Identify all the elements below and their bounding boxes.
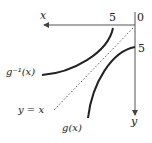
curve-g-inverse-label: g⁻¹(x): [6, 66, 35, 77]
y-tick-label: 5: [138, 42, 145, 55]
inverse-function-diagram: 0 5 5 x y g⁻¹(x) y = x g(x): [0, 0, 152, 143]
curve-g: [88, 47, 135, 118]
curve-g-inverse: [42, 28, 113, 75]
x-tick-label: 5: [109, 11, 116, 24]
diagram-svg: 0 5 5 x y g⁻¹(x) y = x g(x): [0, 0, 152, 143]
y-axis-label: y: [130, 115, 138, 128]
origin-label: 0: [137, 11, 144, 24]
x-axis-label: x: [40, 9, 47, 22]
reflection-line-label: y = x: [17, 104, 44, 115]
reflection-line: [54, 28, 133, 110]
curve-g-label: g(x): [62, 122, 82, 133]
